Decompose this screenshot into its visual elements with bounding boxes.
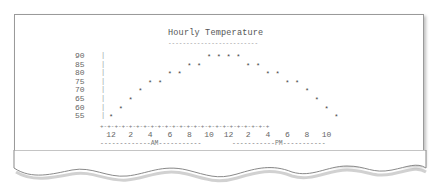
x-tick-label: 12 [106, 130, 116, 139]
x-tick-label: 6 [167, 130, 172, 139]
data-point: * [305, 87, 309, 95]
data-point: * [197, 62, 201, 70]
y-axis-tick: | [101, 77, 105, 85]
chart-title: Hourly Temperature [168, 28, 263, 38]
y-axis-tick: | [101, 94, 105, 102]
x-tick-label: 12 [224, 130, 234, 139]
y-axis-tick: | [101, 85, 105, 93]
data-point: * [324, 105, 328, 113]
title-underline: ------------------------- [168, 40, 258, 47]
x-tick-label: 2 [128, 130, 133, 139]
data-point: * [168, 70, 172, 78]
pm-period-label: -----------PM----------- [232, 140, 326, 147]
x-tick-label: 8 [187, 130, 192, 139]
data-point: * [256, 62, 260, 70]
y-axis-tick: | [101, 60, 105, 68]
data-point: * [334, 113, 338, 121]
hourly-temperature-chart: Hourly Temperature ---------------------… [0, 0, 437, 189]
data-point: * [148, 79, 152, 87]
y-axis-tick: | [101, 111, 105, 119]
data-point: * [285, 79, 289, 87]
y-axis-tick: | [101, 68, 105, 76]
x-tick-label: 6 [285, 130, 290, 139]
x-tick-label: 10 [204, 130, 214, 139]
data-point: * [207, 53, 211, 61]
x-tick-label: 4 [265, 130, 270, 139]
data-point: * [177, 70, 181, 78]
y-tick-label: 55 [75, 111, 85, 120]
data-point: * [246, 62, 250, 70]
x-tick-label: 2 [246, 130, 251, 139]
y-axis-tick: | [101, 51, 105, 59]
am-period-label: -------------AM----------- [100, 140, 201, 147]
x-tick-label: 10 [322, 130, 332, 139]
data-point: * [236, 53, 240, 61]
data-point: * [128, 96, 132, 104]
data-point: * [138, 87, 142, 95]
x-axis-line: +-+-+-+-+-+-+-+-+-+-+-+-+-+-+-+-+-+-+-+-… [100, 123, 269, 130]
data-point: * [109, 113, 113, 121]
data-point: * [315, 96, 319, 104]
y-axis-tick: | [101, 103, 105, 111]
data-point: * [266, 70, 270, 78]
data-point: * [226, 53, 230, 61]
data-point: * [295, 79, 299, 87]
data-point: * [158, 79, 162, 87]
data-point: * [275, 70, 279, 78]
data-point: * [187, 62, 191, 70]
x-tick-label: 4 [148, 130, 153, 139]
x-tick-label: 8 [305, 130, 310, 139]
data-point: * [217, 53, 221, 61]
data-point: * [119, 105, 123, 113]
